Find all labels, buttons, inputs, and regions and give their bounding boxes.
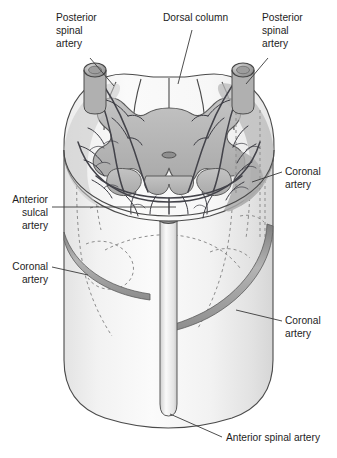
label-line: spinal: [56, 25, 83, 36]
label-line: Coronal: [12, 261, 48, 272]
posterior-spinal-artery-right-vessel: [232, 63, 254, 114]
label-line: Anterior: [12, 194, 48, 205]
label-line: sulcal: [22, 207, 48, 218]
label-line: Posterior: [262, 12, 303, 23]
label-line: spinal: [262, 25, 289, 36]
label-line: Anterior spinal artery: [226, 432, 321, 443]
label-line: artery: [285, 179, 312, 190]
label-posterior-spinal-artery-left: Posterior spinal artery: [56, 12, 97, 49]
spinal-cord-arterial-supply-figure: Posterior spinal artery Dorsal column Po…: [0, 0, 337, 458]
label-dorsal-column: Dorsal column: [163, 12, 228, 23]
label-line: Coronal: [285, 166, 321, 177]
label-line: Posterior: [56, 12, 97, 23]
label-line: artery: [262, 38, 289, 49]
label-coronal-artery-left: Coronal artery: [12, 261, 49, 285]
label-anterior-sulcal-artery: Anterior sulcal artery: [12, 194, 49, 231]
label-coronal-artery-right-lower: Coronal artery: [285, 315, 321, 339]
label-coronal-artery-right-upper: Coronal artery: [285, 166, 321, 190]
anterior-spinal-artery-trunk: [157, 209, 181, 417]
label-line: Coronal: [285, 315, 321, 326]
label-line: Dorsal column: [163, 12, 228, 23]
label-posterior-spinal-artery-right: Posterior spinal artery: [262, 12, 303, 49]
label-line: artery: [56, 38, 83, 49]
asa-shaft: [160, 214, 177, 416]
psa-left-lumen: [89, 66, 102, 74]
label-line: artery: [22, 274, 49, 285]
posterior-spinal-artery-left-vessel: [84, 63, 106, 114]
central-canal: [162, 152, 176, 158]
label-line: artery: [285, 328, 312, 339]
label-line: artery: [22, 220, 49, 231]
diagram-canvas: Posterior spinal artery Dorsal column Po…: [0, 0, 337, 458]
label-anterior-spinal-artery: Anterior spinal artery: [226, 432, 321, 443]
psa-right-lumen: [237, 66, 250, 74]
